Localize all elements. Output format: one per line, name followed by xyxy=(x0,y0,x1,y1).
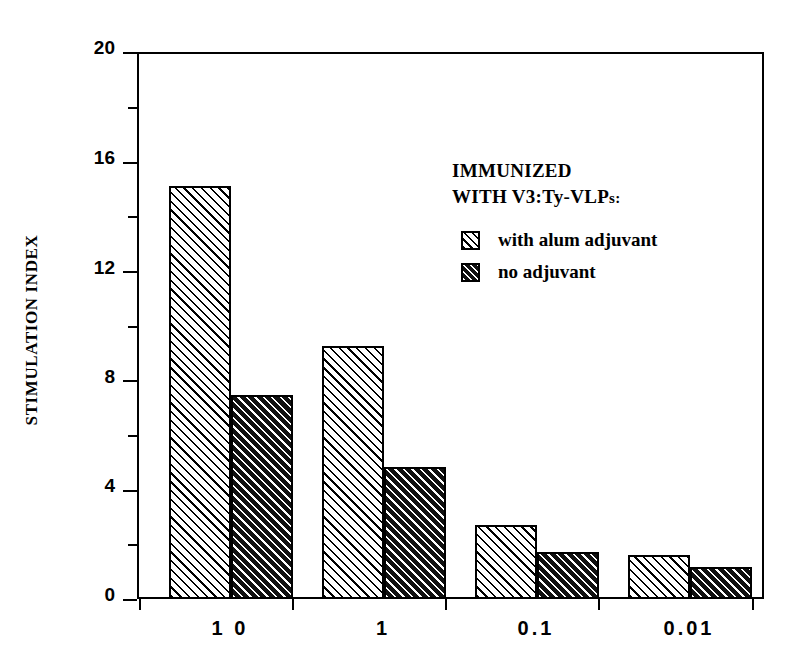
y-tick-mark-18 xyxy=(128,107,137,109)
y-tick-mark-4 xyxy=(123,490,137,492)
legend-title-line-2-suffix: s: xyxy=(609,190,620,206)
bar-group-10-with-alum-adjuvant xyxy=(169,186,231,599)
bar-group-10-no-adjuvant xyxy=(231,395,293,599)
y-tick-mark-6 xyxy=(128,435,137,437)
bar-group-1-no-adjuvant xyxy=(384,467,446,599)
legend: IMMUNIZED WITH V3:Ty-VLPs: with alum adj… xyxy=(452,158,752,288)
x-tick-label-1: 1 xyxy=(303,617,463,640)
x-tick-mark-right xyxy=(752,599,754,610)
x-tick-label-10: 1 0 xyxy=(150,617,310,640)
y-tick-mark-0 xyxy=(123,599,137,601)
y-tick-label-8: 8 xyxy=(15,367,115,386)
y-tick-0: 0 xyxy=(0,585,115,604)
y-tick-label-12: 12 xyxy=(15,258,115,277)
y-tick-mark-10 xyxy=(128,326,137,328)
light-hatch-swatch-icon xyxy=(461,231,480,250)
legend-items: with alum adjuvant no adjuvant xyxy=(461,224,752,288)
y-tick-label-16: 16 xyxy=(15,148,115,167)
x-tick-label-0p1: 0.1 xyxy=(456,617,616,640)
legend-label-no-adjuvant: no adjuvant xyxy=(498,261,596,283)
y-tick-8: 8 xyxy=(0,367,115,386)
y-tick-12: 12 xyxy=(0,258,115,277)
legend-title-line-2: WITH V3:Ty-VLPs: xyxy=(452,184,752,211)
bar-chart-figure: STIMULATION INDEX 20 16 12 8 4 0 xyxy=(0,0,799,667)
bar-group-1-with-alum-adjuvant xyxy=(322,346,384,599)
y-tick-20: 20 xyxy=(0,38,115,57)
y-axis-title: STIMULATION INDEX xyxy=(22,180,42,480)
y-tick-4: 4 xyxy=(0,476,115,495)
bar-group-0p01-no-adjuvant xyxy=(690,567,752,599)
legend-item-no-adjuvant: no adjuvant xyxy=(461,256,752,288)
y-tick-label-0: 0 xyxy=(15,585,115,604)
y-tick-label-4: 4 xyxy=(15,476,115,495)
y-tick-16: 16 xyxy=(0,148,115,167)
x-tick-mark-1 xyxy=(292,599,294,610)
y-tick-mark-8 xyxy=(123,380,137,382)
y-tick-mark-16 xyxy=(123,162,137,164)
legend-item-with-alum-adjuvant: with alum adjuvant xyxy=(461,224,752,256)
y-tick-label-20: 20 xyxy=(15,38,115,57)
y-tick-mark-14 xyxy=(128,216,137,218)
bar-group-0p1-no-adjuvant xyxy=(537,552,599,599)
x-tick-mark-2 xyxy=(445,599,447,610)
bar-group-0p01-with-alum-adjuvant xyxy=(628,555,690,599)
x-tick-mark-left xyxy=(139,599,141,610)
bar-group-0p1-with-alum-adjuvant xyxy=(475,525,537,599)
x-tick-label-0p01: 0.01 xyxy=(609,617,769,640)
dark-hatch-swatch-icon xyxy=(461,263,480,282)
y-tick-mark-12 xyxy=(123,271,137,273)
x-tick-mark-3 xyxy=(598,599,600,610)
legend-label-with-alum-adjuvant: with alum adjuvant xyxy=(498,229,657,251)
legend-title-line-1: IMMUNIZED xyxy=(452,158,752,184)
legend-title-line-2-prefix: WITH V3:Ty-VLP xyxy=(452,186,609,207)
y-tick-mark-20 xyxy=(123,52,137,54)
y-tick-mark-2 xyxy=(128,544,137,546)
